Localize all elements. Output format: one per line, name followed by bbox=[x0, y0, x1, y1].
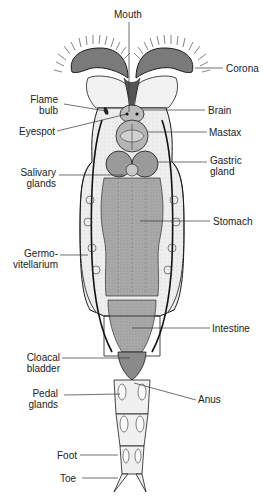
label-cloacal-line1: Cloacal bbox=[14, 352, 60, 363]
label-intestine: Intestine bbox=[212, 323, 250, 334]
label-pedal-glands: Pedal glands bbox=[18, 388, 58, 410]
label-mouth: Mouth bbox=[114, 9, 142, 20]
label-cloacal-line2: bladder bbox=[14, 363, 60, 374]
toes bbox=[114, 474, 146, 492]
label-toe: Toe bbox=[60, 473, 76, 484]
intestine bbox=[108, 300, 156, 352]
label-gastric-gland: Gastric gland bbox=[210, 155, 242, 177]
label-salivary-line2: glands bbox=[10, 178, 56, 189]
label-pedal-line2: glands bbox=[18, 399, 58, 410]
label-flame-bulb: Flame bulb bbox=[22, 94, 58, 116]
label-cloacal-bladder: Cloacal bladder bbox=[14, 352, 60, 374]
label-gastric-line1: Gastric bbox=[210, 155, 242, 166]
cloacal-bladder bbox=[118, 352, 146, 380]
label-corona: Corona bbox=[226, 63, 259, 74]
label-mastax: Mastax bbox=[209, 127, 241, 138]
eyespot-right bbox=[135, 112, 138, 115]
label-eyespot: Eyespot bbox=[19, 126, 55, 137]
label-flame-bulb-line1: Flame bbox=[22, 94, 58, 105]
label-germovitellarium: Germo- vitellarium bbox=[4, 248, 58, 270]
label-gastric-line2: gland bbox=[210, 166, 242, 177]
corona bbox=[54, 35, 210, 78]
label-salivary-glands: Salivary glands bbox=[10, 167, 56, 189]
label-germo-line1: Germo- bbox=[4, 248, 58, 259]
label-pedal-line1: Pedal bbox=[18, 388, 58, 399]
mastax bbox=[116, 120, 148, 152]
label-flame-bulb-line2: bulb bbox=[22, 105, 58, 116]
label-stomach: Stomach bbox=[213, 216, 252, 227]
label-foot: Foot bbox=[57, 450, 77, 461]
label-germo-line2: vitellarium bbox=[4, 259, 58, 270]
label-brain: Brain bbox=[208, 105, 231, 116]
label-anus: Anus bbox=[198, 394, 221, 405]
label-salivary-line1: Salivary bbox=[10, 167, 56, 178]
